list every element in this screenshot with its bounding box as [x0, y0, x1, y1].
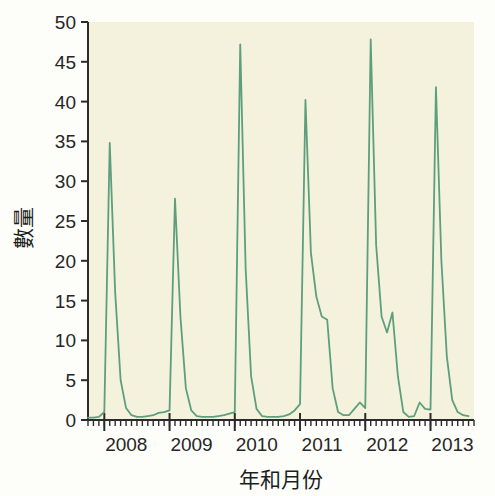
y-axis-tick-label: 30: [55, 171, 76, 192]
x-axis: 200820092010201120122013: [81, 413, 474, 455]
line-chart: 05101520253035404550 2008200920102011201…: [0, 0, 495, 496]
y-axis-tick-label: 5: [65, 370, 76, 391]
x-axis-tick-label: 2012: [366, 434, 408, 455]
y-axis-tick-label: 50: [55, 12, 76, 33]
x-axis-tick-label: 2013: [431, 434, 473, 455]
y-axis-tick-label: 45: [55, 52, 76, 73]
x-axis-tick-label: 2010: [236, 434, 278, 455]
y-axis-tick-label: 35: [55, 131, 76, 152]
y-axis-tick-label: 40: [55, 92, 76, 113]
x-axis-tick-label: 2008: [105, 434, 147, 455]
y-axis: 05101520253035404550: [55, 12, 88, 431]
y-axis-tick-label: 0: [65, 410, 76, 431]
x-axis-tick-label: 2009: [170, 434, 212, 455]
y-axis-tick-label: 25: [55, 211, 76, 232]
chart-container: 05101520253035404550 2008200920102011201…: [0, 0, 495, 496]
x-axis-tick-label: 2011: [302, 434, 343, 455]
x-axis-title: 年和月份: [239, 468, 323, 491]
y-axis-tick-label: 10: [55, 330, 76, 351]
y-axis-title: 數量: [12, 207, 35, 249]
y-axis-tick-label: 20: [55, 251, 76, 272]
y-axis-tick-label: 15: [55, 291, 76, 312]
plot-background: [88, 22, 474, 420]
